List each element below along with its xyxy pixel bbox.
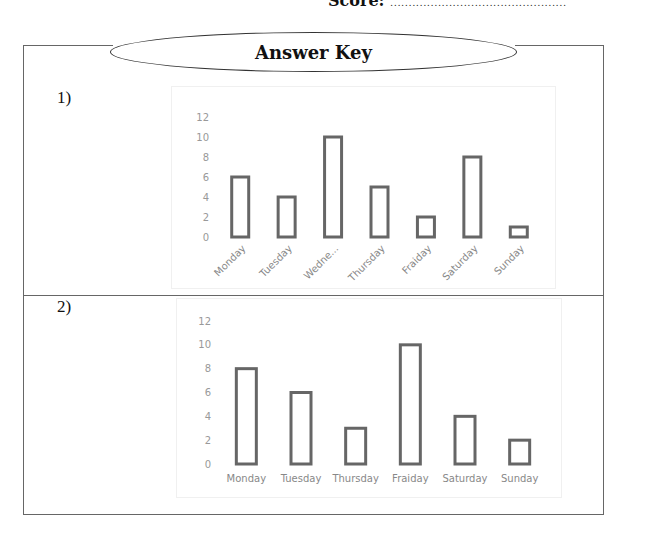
x-category-label: Thursday — [331, 473, 379, 484]
y-tick-label: 8 — [205, 363, 211, 374]
y-tick-label: 4 — [205, 411, 211, 422]
x-category-label: Wedne... — [302, 243, 341, 282]
bar-fraiday — [400, 345, 420, 464]
x-category-label: Thursday — [346, 243, 387, 284]
section-divider — [23, 295, 604, 296]
bar-wedne — [325, 137, 342, 237]
x-category-label: Sunday — [492, 243, 526, 277]
chart-1: 024681012MondayTuesdayWedne...ThursdayFr… — [171, 86, 556, 289]
question-1-number: 1) — [57, 88, 71, 108]
frame-top-right-border — [515, 45, 604, 46]
y-tick-label: 6 — [203, 172, 209, 183]
score-field: Score: .................................… — [328, 0, 567, 10]
bar-tuesday — [291, 393, 311, 465]
x-category-label: Saturday — [442, 473, 487, 484]
x-category-label: Tuesday — [280, 473, 322, 484]
page-title: Answer Key — [255, 42, 372, 63]
bar-sunday — [510, 227, 527, 237]
bar-thursday — [371, 187, 388, 237]
bar-saturday — [464, 157, 481, 237]
bar-thursday — [346, 428, 366, 464]
score-label: Score: — [328, 0, 384, 10]
bar-tuesday — [278, 197, 295, 237]
bar-fraiday — [417, 217, 434, 237]
bar-monday — [236, 369, 256, 464]
chart-2: 024681012MondayTuesdayThursdayFraidaySat… — [176, 298, 562, 498]
y-tick-label: 2 — [203, 212, 209, 223]
x-category-label: Monday — [212, 243, 248, 279]
x-category-label: Fraiday — [392, 473, 429, 484]
bar-saturday — [455, 416, 475, 464]
x-category-label: Tuesday — [257, 243, 294, 280]
question-2-number: 2) — [57, 297, 71, 317]
y-tick-label: 4 — [203, 192, 209, 203]
bar-sunday — [510, 440, 530, 464]
bar-chart-svg: 024681012MondayTuesdayWedne...ThursdayFr… — [172, 87, 555, 288]
y-tick-label: 10 — [198, 339, 211, 350]
x-category-label: Fraiday — [400, 243, 434, 277]
y-tick-label: 6 — [205, 387, 211, 398]
x-category-label: Monday — [227, 473, 267, 484]
x-category-label: Saturday — [440, 243, 480, 283]
y-tick-label: 0 — [203, 232, 209, 243]
bar-monday — [232, 177, 249, 237]
y-tick-label: 8 — [203, 152, 209, 163]
bar-chart-svg: 024681012MondayTuesdayThursdayFraidaySat… — [177, 299, 561, 497]
y-tick-label: 2 — [205, 435, 211, 446]
title-banner: Answer Key — [110, 32, 517, 72]
score-blank-line: ........................................… — [390, 0, 567, 8]
y-tick-label: 12 — [196, 112, 209, 123]
y-tick-label: 0 — [205, 459, 211, 470]
frame-top-left-border — [23, 45, 113, 46]
x-category-label: Sunday — [501, 473, 538, 484]
y-tick-label: 10 — [196, 132, 209, 143]
y-tick-label: 12 — [198, 316, 211, 327]
